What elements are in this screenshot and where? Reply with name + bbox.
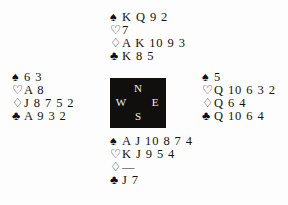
north-club-ranks: K 8 5 (122, 50, 154, 63)
hand-south: ♠ A J 10 8 7 4 ♡ K J 9 5 4 ♢ — ♣ J 7 (110, 135, 193, 187)
hand-east: ♠ 5 ♡ Q 10 6 3 2 ♢ Q 6 4 ♣ Q 10 6 4 (202, 71, 276, 123)
hand-west: ♠ 6 3 ♡ A 8 ♢ J 8 7 5 2 ♣ A 9 3 2 (12, 71, 74, 123)
compass-box: N W E S (110, 78, 166, 128)
hand-north: ♠ K Q 9 2 ♡ 7 ♢ A K 10 9 3 ♣ K 8 5 (110, 11, 186, 63)
south-club-ranks: J 7 (122, 174, 139, 187)
east-club-ranks: Q 10 6 4 (214, 110, 265, 123)
bridge-deal-diagram: ♠ K Q 9 2 ♡ 7 ♢ A K 10 9 3 ♣ K 8 5 ♠ 6 3… (0, 0, 288, 205)
club-icon: ♣ (110, 50, 121, 63)
south-club-row: ♣ J 7 (110, 174, 193, 187)
north-club-row: ♣ K 8 5 (110, 50, 186, 63)
compass-north-label: N (132, 83, 144, 94)
club-icon: ♣ (12, 110, 23, 123)
compass-south-label: S (132, 111, 144, 122)
compass-east-label: E (149, 97, 161, 108)
club-icon: ♣ (202, 110, 213, 123)
compass-west-label: W (115, 97, 127, 108)
west-club-row: ♣ A 9 3 2 (12, 110, 74, 123)
west-club-ranks: A 9 3 2 (24, 110, 67, 123)
east-club-row: ♣ Q 10 6 4 (202, 110, 276, 123)
club-icon: ♣ (110, 174, 121, 187)
